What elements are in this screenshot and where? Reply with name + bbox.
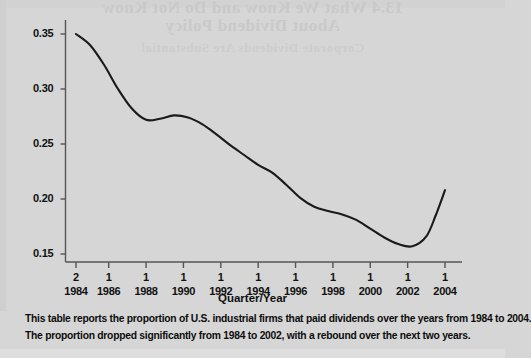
x-tick-quarter-1: 1 [89,271,129,283]
chart-caption: This table reports the proportion of U.S… [0,311,505,351]
x-tick-quarter-6: 1 [276,271,316,283]
y-tick-label-1: 0.30 [14,82,54,94]
chart-canvas [0,0,505,300]
chart-axes [66,20,463,262]
page-bottom-strip [0,349,505,358]
x-tick-quarter-3: 1 [163,271,203,283]
x-tick-quarter-4: 1 [201,271,241,283]
x-tick-quarter-7: 1 [313,271,353,283]
y-tick-label-0: 0.35 [14,27,54,39]
x-tick-quarter-8: 1 [350,271,390,283]
x-tick-quarter-5: 1 [238,271,278,283]
x-axis-title: Quarter/Year [0,292,505,304]
y-tick-label-4: 0.15 [14,247,54,259]
x-tick-quarter-10: 1 [425,271,465,283]
caption-line-1: This table reports the proportion of U.S… [25,313,531,324]
dividend-proportion-series [76,34,445,247]
x-tick-quarter-9: 1 [388,271,428,283]
chart-ticks [61,34,446,268]
line-chart: 0.350.300.250.200.15 2198411986119881199… [0,0,505,300]
y-tick-label-3: 0.20 [14,192,54,204]
x-tick-quarter-2: 1 [126,271,166,283]
caption-line-2: The proportion dropped significantly fro… [25,330,470,341]
y-tick-label-2: 0.25 [14,137,54,149]
